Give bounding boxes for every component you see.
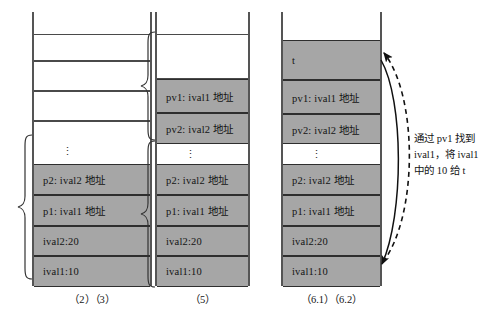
diagram-canvas: ⋮ p2: ival2 地址 p1: ival1 地址 ival2:20 iva…	[0, 0, 490, 317]
cell-label: ival2:20	[43, 236, 79, 247]
memory-cell: p1: ival1 地址	[157, 195, 248, 226]
vertical-ellipsis-icon: ⋮	[185, 153, 196, 156]
memory-cell: pv2: ival2 地址	[283, 114, 380, 144]
memory-cell: p1: ival1 地址	[283, 195, 380, 226]
memory-column-2: pv1: ival1 地址 pv2: ival2 地址 ⋮ p2: ival2 …	[155, 12, 250, 286]
cell-label: pv2: ival2 地址	[292, 122, 360, 137]
annotation-line: ival1，将 ival1	[414, 147, 479, 163]
memory-cell-ellipsis: ⋮	[34, 138, 150, 164]
caption-column-2: （5）	[155, 291, 250, 306]
memory-cell: ival2:20	[157, 226, 248, 256]
memory-cell: ival1:10	[157, 256, 248, 287]
memory-cell: p2: ival2 地址	[34, 164, 150, 195]
memory-cell	[157, 34, 248, 79]
cell-label: ival1:10	[292, 266, 328, 277]
brace-col2-upper	[139, 31, 157, 141]
memory-cell: p2: ival2 地址	[283, 164, 380, 195]
memory-cell-ellipsis: ⋮	[157, 144, 248, 164]
brace-col1-locals	[16, 134, 34, 280]
memory-cell-ival1: ival1:10	[283, 256, 380, 287]
caption-column-3: （6.1）（6.2）	[281, 291, 382, 306]
annotation-line: 中的 10 给 t	[414, 163, 479, 179]
cell-label: t	[292, 55, 295, 66]
memory-cell: ival2:20	[283, 226, 380, 256]
column-rail-right	[380, 12, 382, 286]
caption-column-1: （2）（3）	[32, 291, 152, 306]
cell-label: p1: ival1 地址	[292, 203, 354, 218]
cell-label: ival2:20	[166, 236, 202, 247]
memory-cell: pv2: ival2 地址	[157, 113, 248, 144]
memory-cell-t: t	[283, 40, 380, 80]
memory-cell: ival2:20	[34, 226, 150, 256]
cell-label: p1: ival1 地址	[166, 203, 228, 218]
cell-label: p2: ival2 地址	[292, 172, 354, 187]
arrow-dashed-up	[383, 53, 409, 262]
cell-label: pv2: ival2 地址	[166, 121, 234, 136]
annotation-pv1: 通过 pv1 找到 ival1，将 ival1 中的 10 给 t	[414, 131, 479, 179]
column-rail-right	[248, 12, 250, 286]
cell-label: pv1: ival1 地址	[292, 90, 360, 105]
memory-cell: p1: ival1 地址	[34, 195, 150, 226]
memory-cell: ival1:10	[34, 256, 150, 287]
annotation-line: 通过 pv1 找到	[414, 131, 479, 147]
cell-label: p1: ival1 地址	[43, 203, 105, 218]
brace-col2-lower	[139, 140, 157, 288]
memory-column-3: t pv1: ival1 地址 pv2: ival2 地址 ⋮ p2: ival…	[281, 12, 382, 286]
cell-label: p2: ival2 地址	[43, 172, 105, 187]
cell-label: ival1:10	[166, 266, 202, 277]
memory-column-1: ⋮ p2: ival2 地址 p1: ival1 地址 ival2:20 iva…	[32, 12, 152, 286]
cell-label: ival1:10	[43, 266, 79, 277]
arrow-solid-down	[381, 60, 398, 264]
memory-cell	[34, 34, 150, 61]
memory-cell	[34, 61, 150, 91]
vertical-ellipsis-icon: ⋮	[62, 150, 73, 153]
vertical-ellipsis-icon: ⋮	[311, 153, 322, 156]
memory-cell	[34, 91, 150, 121]
memory-cell: pv1: ival1 地址	[157, 79, 248, 113]
memory-cell: pv1: ival1 地址	[283, 80, 380, 114]
cell-label: p2: ival2 地址	[166, 172, 228, 187]
memory-cell-ellipsis: ⋮	[283, 144, 380, 164]
cell-label: ival2:20	[292, 236, 328, 247]
memory-cell: p2: ival2 地址	[157, 164, 248, 195]
cell-label: pv1: ival1 地址	[166, 89, 234, 104]
